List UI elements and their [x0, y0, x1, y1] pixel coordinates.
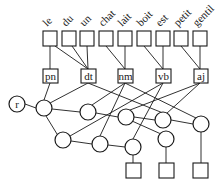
word-boxes [43, 31, 207, 46]
network-diagram: le du un chat lait boit est petit gentil… [0, 0, 218, 186]
network-node[interactable] [158, 131, 174, 147]
word-label: chat [96, 7, 117, 28]
word-pos-edges [50, 46, 200, 69]
pos-boxes: pn dt nm vb aj [43, 69, 208, 83]
word-box-lait[interactable] [118, 31, 132, 46]
word-label: le [40, 14, 54, 28]
word-label: petit [171, 6, 193, 28]
pos-label: pn [45, 70, 57, 82]
network-node[interactable] [80, 104, 96, 120]
network-edges [25, 104, 201, 163]
pos-label: aj [197, 70, 205, 82]
root-node[interactable]: r [9, 96, 25, 112]
network-node[interactable] [193, 116, 209, 132]
network-node[interactable] [125, 139, 141, 155]
network-node[interactable] [155, 112, 171, 128]
word-box-du[interactable] [62, 31, 76, 46]
word-label: est [153, 11, 170, 28]
pos-label: dt [84, 70, 93, 82]
word-label: un [77, 12, 94, 29]
output-box[interactable] [193, 163, 208, 178]
network-node[interactable] [55, 132, 71, 148]
word-box-petit[interactable] [174, 31, 188, 46]
word-label: boit [134, 8, 155, 29]
pos-label: nm [118, 70, 133, 82]
root-label: r [15, 98, 19, 110]
word-labels: le du un chat lait boit est petit gentil [40, 2, 216, 28]
word-label: du [59, 12, 76, 29]
word-label: gentil [190, 2, 216, 28]
network-node[interactable] [92, 136, 108, 152]
word-box-boit[interactable] [137, 31, 151, 46]
word-box-le[interactable] [43, 31, 57, 46]
network-node[interactable] [118, 109, 134, 125]
output-boxes [126, 163, 208, 178]
output-box[interactable] [126, 163, 141, 178]
word-box-est[interactable] [156, 31, 170, 46]
word-box-un[interactable] [80, 31, 94, 46]
word-box-gentil[interactable] [193, 31, 207, 46]
network-node[interactable] [36, 100, 52, 116]
word-label: lait [115, 10, 133, 28]
pos-label: vb [158, 70, 170, 82]
word-box-chat[interactable] [99, 31, 113, 46]
output-box[interactable] [159, 163, 174, 178]
